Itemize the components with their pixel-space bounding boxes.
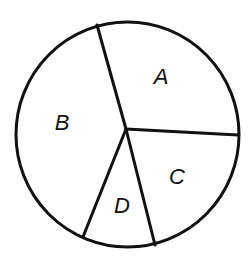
slice-label-b: B — [55, 110, 70, 135]
slice-label-d: D — [114, 193, 130, 218]
pie-chart: A B C D — [0, 0, 249, 266]
slice-label-a: A — [152, 64, 169, 89]
slice-label-c: C — [169, 164, 185, 189]
pie-chart-figure: A B C D — [0, 0, 249, 266]
